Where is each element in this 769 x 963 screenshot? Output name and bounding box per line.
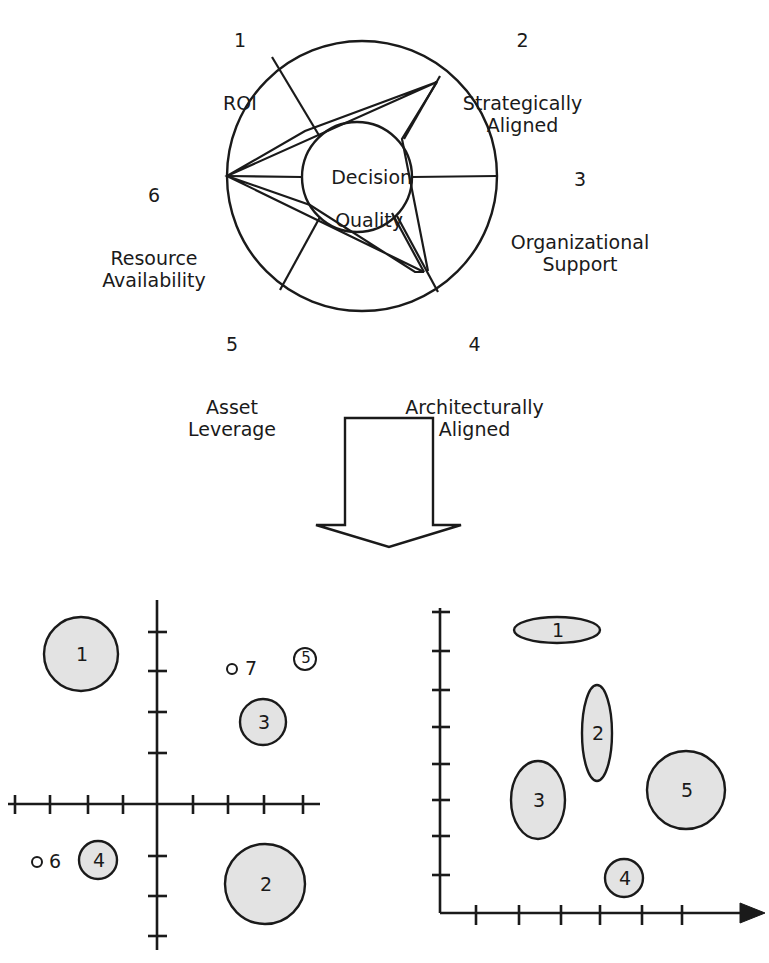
radar-wheel (227, 41, 497, 311)
ellipse-2 (582, 685, 612, 781)
right-plot-ellipses (511, 617, 725, 897)
four-quadrant-bubble-plot (8, 600, 320, 950)
radar-spokes (227, 57, 497, 292)
ellipse-4 (605, 859, 643, 897)
radar-inner-circle (302, 122, 412, 232)
bubble-3 (240, 699, 286, 745)
first-quadrant-ellipse-plot (432, 608, 765, 925)
radar-spoke-6 (227, 176, 302, 177)
diagram-canvas (0, 0, 769, 963)
bubble-2 (225, 844, 305, 924)
right-plot-x-axis-arrowhead (740, 903, 765, 923)
left-plot-bubbles (32, 617, 316, 924)
radar-spoke-3 (412, 176, 497, 177)
radar-spoke-4 (397, 216, 438, 292)
down-arrow (316, 418, 461, 547)
bubble-5 (294, 648, 316, 670)
radar-spoke-5 (280, 217, 320, 290)
bubble-4 (79, 841, 117, 879)
radar-spoke-1 (272, 57, 320, 137)
ellipse-5 (647, 751, 725, 829)
ellipse-1 (514, 617, 600, 643)
right-plot-x-ticks (476, 905, 682, 925)
diagram-svg (0, 0, 769, 963)
bubble-6 (32, 857, 42, 867)
down-arrow-shape (316, 418, 461, 547)
bubble-7 (227, 664, 237, 674)
bubble-1 (44, 617, 118, 691)
ellipse-3 (511, 761, 565, 839)
